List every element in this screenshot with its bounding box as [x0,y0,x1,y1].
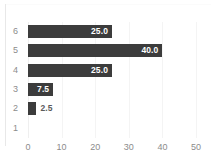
y-axis-label-1: 1 [13,119,18,138]
y-axis-label-6: 6 [13,22,18,41]
bar-row [28,119,196,138]
bar-value-label: 40.0 [28,44,158,57]
y-axis-label-5: 5 [13,41,18,60]
bar-value-label: 2.5 [40,102,52,115]
gridline-x-50 [196,22,197,138]
x-axis-tick-labels: 01020304050 [28,142,196,158]
bar-row: 40.0 [28,41,196,60]
x-axis-label-30: 30 [124,142,134,152]
bar-value-label: 25.0 [28,64,108,77]
y-axis-label-2: 2 [13,99,18,118]
chart-frame-top [5,4,211,5]
y-axis-label-4: 4 [13,61,18,80]
y-axis-tick-labels: 654321 [0,22,23,138]
x-axis-label-50: 50 [191,142,201,152]
x-axis-label-40: 40 [157,142,167,152]
bar-row: 7.5 [28,80,196,99]
plot-area: 25.040.025.07.52.5 [28,22,196,138]
bar-row: 2.5 [28,99,196,118]
y-axis-label-3: 3 [13,80,18,99]
bar-row: 25.0 [28,22,196,41]
bar-series: 25.040.025.07.52.5 [28,22,196,138]
bar [28,102,36,115]
bar-row: 25.0 [28,61,196,80]
bar-value-label: 25.0 [28,25,108,38]
x-axis-label-20: 20 [90,142,100,152]
x-axis-label-0: 0 [25,142,30,152]
bar-value-label: 7.5 [28,83,49,96]
bar-chart: 25.040.025.07.52.5 654321 01020304050 [0,0,216,164]
x-axis-label-10: 10 [57,142,67,152]
